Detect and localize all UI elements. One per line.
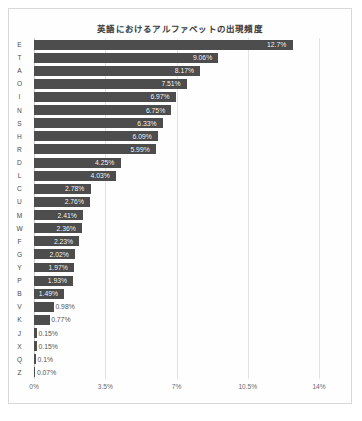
bar-row: F2.23%: [9, 235, 353, 248]
bar-row: R5.99%: [9, 143, 353, 156]
bar-row: D4.25%: [9, 156, 353, 169]
bar-row: M2.41%: [9, 209, 353, 222]
category-label: Y: [9, 261, 30, 274]
category-label: X: [9, 340, 30, 353]
bar-value-label: 0.98%: [55, 300, 74, 313]
bar-row: H6.09%: [9, 130, 353, 143]
bar-value-label: 0.15%: [39, 327, 58, 340]
bar-row: K0.77%: [9, 313, 353, 326]
category-label: H: [9, 130, 30, 143]
bar-row: E12.7%: [9, 38, 353, 51]
bar-value-label: 2.41%: [58, 209, 77, 222]
bar-value-label: 8.17%: [175, 64, 194, 77]
category-label: T: [9, 51, 30, 64]
bar-value-label: 7.51%: [161, 77, 180, 90]
bar[interactable]: [34, 367, 35, 377]
plot-area: E12.7%T9.06%A8.17%O7.51%I6.97%N6.75%S6.3…: [9, 38, 353, 405]
category-label: P: [9, 274, 30, 287]
bar[interactable]: [34, 341, 37, 351]
bar-value-label: 6.33%: [137, 117, 156, 130]
category-label: S: [9, 117, 30, 130]
chart-card: 英語におけるアルファベットの出現頻度 E12.7%T9.06%A8.17%O7.…: [8, 8, 352, 404]
bar-value-label: 0.77%: [51, 313, 70, 326]
category-label: R: [9, 143, 30, 156]
bar-value-label: 12.7%: [267, 38, 286, 51]
bar-value-label: 6.97%: [150, 90, 169, 103]
bar-value-label: 0.15%: [39, 340, 58, 353]
bar-value-label: 2.36%: [57, 222, 76, 235]
bar-value-label: 2.76%: [65, 195, 84, 208]
bar-row: X0.15%: [9, 340, 353, 353]
bar-row: B1.49%: [9, 287, 353, 300]
x-axis-tick-label: 7%: [172, 383, 182, 390]
bar-value-label: 0.1%: [38, 353, 54, 366]
category-label: D: [9, 156, 30, 169]
category-label: V: [9, 300, 30, 313]
bar-value-label: 1.93%: [48, 274, 67, 287]
category-label: B: [9, 287, 30, 300]
bar-row: T9.06%: [9, 51, 353, 64]
bar[interactable]: [34, 315, 50, 325]
category-label: M: [9, 209, 30, 222]
category-label: A: [9, 64, 30, 77]
category-label: Z: [9, 366, 30, 379]
category-label: J: [9, 327, 30, 340]
category-label: C: [9, 182, 30, 195]
bar-value-label: 9.06%: [193, 51, 212, 64]
category-label: G: [9, 248, 30, 261]
bar-row: P1.93%: [9, 274, 353, 287]
x-axis-tick-label: 14%: [312, 383, 325, 390]
bar-value-label: 2.02%: [50, 248, 69, 261]
x-axis-tick-label: 0%: [29, 383, 39, 390]
x-axis-tick-label: 3.5%: [98, 383, 113, 390]
bar-rows: E12.7%T9.06%A8.17%O7.51%I6.97%N6.75%S6.3…: [9, 38, 353, 379]
bar-value-label: 6.09%: [132, 130, 151, 143]
bar-row: I6.97%: [9, 90, 353, 103]
category-label: I: [9, 90, 30, 103]
bar-row: N6.75%: [9, 104, 353, 117]
bar-value-label: 4.03%: [91, 169, 110, 182]
bar-row: Z0.07%: [9, 366, 353, 379]
bar[interactable]: [34, 328, 37, 338]
bar-row: U2.76%: [9, 195, 353, 208]
bar-value-label: 1.97%: [49, 261, 68, 274]
bar-row: V0.98%: [9, 300, 353, 313]
bar[interactable]: [34, 40, 293, 50]
bar-row: W2.36%: [9, 222, 353, 235]
category-label: W: [9, 222, 30, 235]
bar-value-label: 0.07%: [37, 366, 56, 379]
chart-title: 英語におけるアルファベットの出現頻度: [9, 22, 351, 34]
bar-row: G2.02%: [9, 248, 353, 261]
bar[interactable]: [34, 53, 218, 63]
bar-value-label: 2.23%: [54, 235, 73, 248]
bar-row: O7.51%: [9, 77, 353, 90]
bar-row: J0.15%: [9, 327, 353, 340]
bar-row: Y1.97%: [9, 261, 353, 274]
bar-row: C2.78%: [9, 182, 353, 195]
category-label: K: [9, 313, 30, 326]
bar-row: Q0.1%: [9, 353, 353, 366]
bar-value-label: 6.75%: [146, 104, 165, 117]
category-label: Q: [9, 353, 30, 366]
category-label: N: [9, 104, 30, 117]
bar[interactable]: [34, 354, 36, 364]
category-label: L: [9, 169, 30, 182]
bar-row: A8.17%: [9, 64, 353, 77]
bar-value-label: 2.78%: [65, 182, 84, 195]
bar-row: L4.03%: [9, 169, 353, 182]
bar[interactable]: [34, 302, 54, 312]
x-axis: 0%3.5%7%10.5%14%: [9, 379, 353, 405]
category-label: E: [9, 38, 30, 51]
bar-value-label: 5.99%: [130, 143, 149, 156]
bar-value-label: 4.25%: [95, 156, 114, 169]
bar-value-label: 1.49%: [39, 287, 58, 300]
bar-row: S6.33%: [9, 117, 353, 130]
category-label: U: [9, 195, 30, 208]
x-axis-tick-label: 10.5%: [238, 383, 257, 390]
category-label: O: [9, 77, 30, 90]
category-label: F: [9, 235, 30, 248]
